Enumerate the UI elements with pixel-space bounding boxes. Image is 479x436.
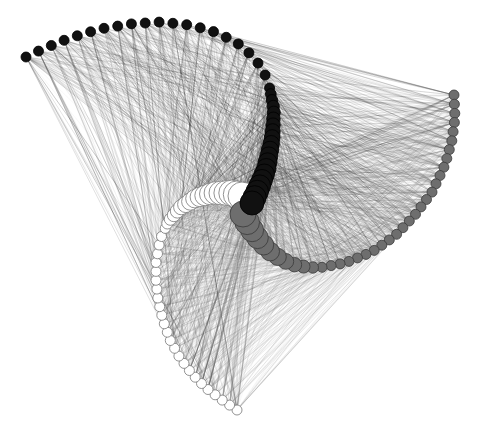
node-black bbox=[99, 23, 109, 33]
node-gray bbox=[444, 145, 454, 155]
node-gray bbox=[450, 108, 460, 118]
node-white bbox=[153, 249, 163, 259]
node-gray bbox=[449, 90, 459, 100]
node-white bbox=[153, 293, 163, 303]
node-black bbox=[59, 35, 69, 45]
node-black bbox=[260, 70, 270, 80]
node-black bbox=[154, 17, 164, 27]
network-graph bbox=[0, 0, 479, 436]
node-black bbox=[34, 46, 44, 56]
node-black bbox=[240, 191, 264, 215]
node-gray bbox=[335, 259, 345, 269]
node-black bbox=[182, 20, 192, 30]
node-gray bbox=[448, 127, 458, 137]
node-black bbox=[72, 31, 82, 41]
node-black bbox=[86, 27, 96, 37]
node-gray bbox=[449, 99, 459, 109]
node-black bbox=[113, 21, 123, 31]
node-white bbox=[151, 258, 161, 268]
node-white bbox=[155, 302, 165, 312]
node-black bbox=[21, 52, 31, 62]
node-gray bbox=[326, 261, 336, 271]
node-black bbox=[253, 58, 263, 68]
node-black bbox=[195, 23, 205, 33]
node-black bbox=[140, 18, 150, 28]
node-black bbox=[168, 18, 178, 28]
node-black bbox=[46, 41, 56, 51]
node-black bbox=[244, 48, 254, 58]
node-gray bbox=[449, 118, 459, 128]
node-black bbox=[221, 32, 231, 42]
node-black bbox=[233, 39, 243, 49]
node-black bbox=[209, 27, 219, 37]
node-black bbox=[126, 19, 136, 29]
